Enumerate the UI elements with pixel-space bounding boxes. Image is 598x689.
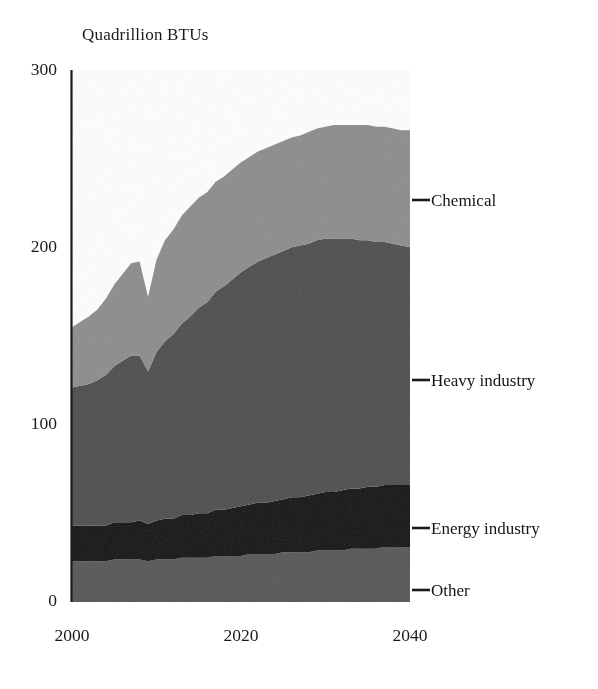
stacked-areas — [72, 125, 410, 602]
plot-canvas — [0, 0, 598, 689]
chart-figure: Quadrillion BTUs 300 200 100 0 2000 2020… — [0, 0, 598, 689]
legend-connectors — [412, 200, 430, 590]
